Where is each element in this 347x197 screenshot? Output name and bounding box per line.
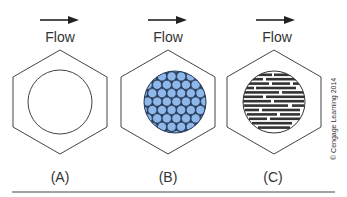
flow-label: Flow <box>262 29 292 45</box>
caption: (A) <box>51 169 70 185</box>
arrow-right-icon <box>256 16 295 24</box>
flow-label: Flow <box>45 29 75 45</box>
arrow-right-icon <box>148 16 187 24</box>
caption: (B) <box>159 169 178 185</box>
arrow-right-icon <box>40 16 79 24</box>
copyright-text: © Cengage Learning 2014 <box>330 78 338 160</box>
flow-label: Flow <box>153 29 183 45</box>
panel-b: Flow (B) <box>121 16 215 185</box>
caption: (C) <box>263 169 282 185</box>
panel-a: Flow (A) <box>13 16 107 185</box>
empty-circle <box>28 70 92 134</box>
panel-c: Flow (C) <box>227 16 321 185</box>
flow-diagram: Flow (A) Flow (B) Flow (C) <box>0 0 347 197</box>
